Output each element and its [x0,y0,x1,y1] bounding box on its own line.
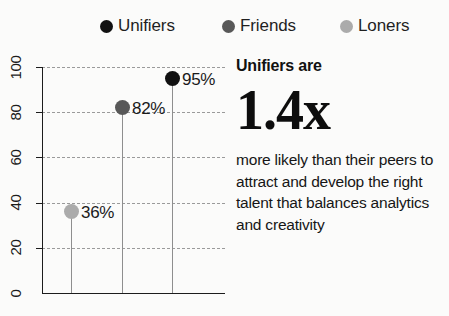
callout-eyebrow: Unifiers are [236,56,444,75]
y-axis-line [42,67,43,293]
chart-legend: Unifiers Friends Loners [0,14,449,42]
x-axis-line [42,293,225,294]
callout-stat: 1.4x [236,81,444,139]
gridline-100 [42,67,225,68]
legend-item-friends: Friends [222,16,296,36]
stem-loners [71,212,72,293]
callout-block: Unifiers are 1.4x more likely than their… [236,56,444,235]
ytick-label-60: 60 [7,141,24,175]
data-point-loners [64,204,79,219]
ytick-label-20: 20 [7,231,24,265]
legend-dot-loners [340,20,353,33]
legend-dot-unifiers [100,20,113,33]
legend-label-friends: Friends [240,16,296,36]
legend-item-loners: Loners [340,16,409,36]
legend-dot-friends [222,20,235,33]
legend-label-unifiers: Unifiers [118,16,175,36]
stem-friends [122,108,123,293]
legend-label-loners: Loners [358,16,409,36]
gridline-60 [42,157,225,158]
ytick-label-80: 80 [7,96,24,130]
ytick-label-0: 0 [7,277,24,311]
ytick-label-100: 100 [7,51,24,85]
legend-item-unifiers: Unifiers [100,16,175,36]
chart-plot-area: 100 80 60 40 20 0 36% 82% 95% [0,45,235,316]
data-label-friends: 82% [132,100,165,117]
data-point-friends [115,100,130,115]
stem-unifiers [172,78,173,293]
data-point-unifiers [165,71,180,86]
data-label-loners: 36% [81,204,114,221]
ytick-label-40: 40 [7,186,24,220]
data-label-unifiers: 95% [182,71,215,88]
callout-body: more likely than their peers to attract … [236,149,444,235]
gridline-20 [42,248,225,249]
infographic-figure: Unifiers Friends Loners 100 80 60 40 20 … [0,0,449,316]
